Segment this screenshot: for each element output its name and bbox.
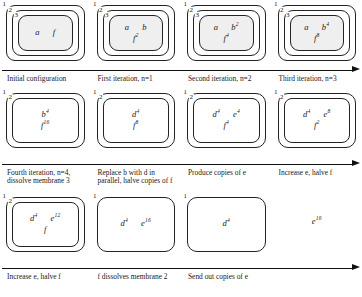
arrow-line xyxy=(2,70,352,71)
arrow-head-icon xyxy=(352,264,360,270)
membrane-3[interactable] xyxy=(18,15,73,51)
membrane-label-1: 1 xyxy=(183,193,188,200)
membrane-label-1: 1 xyxy=(93,1,98,8)
membrane-label-1: 1 xyxy=(2,89,7,96)
membrane-configuration[interactable]: 12d4e12f xyxy=(0,191,91,264)
membrane-label-2: 2 xyxy=(189,94,194,101)
membrane-1[interactable] xyxy=(97,197,176,252)
arrow-line xyxy=(2,164,352,165)
membrane-label-2: 2 xyxy=(8,94,13,101)
membrane-configuration[interactable]: e16 xyxy=(272,191,362,264)
diagram-canvas: 123af123abf2123ab2f4123ab4f8Initial conf… xyxy=(0,0,362,297)
membrane-configuration[interactable]: 123ab4f8 xyxy=(272,0,362,66)
membrane-configuration[interactable]: 123ab2f4 xyxy=(181,0,272,66)
membrane-label-2: 2 xyxy=(280,7,285,14)
membrane-configuration[interactable]: 1d4 xyxy=(181,191,272,264)
membrane-label-3: 3 xyxy=(195,12,200,19)
membrane-2[interactable] xyxy=(12,202,79,247)
arrow-line xyxy=(2,268,352,269)
step-caption: Produce copies of e xyxy=(181,169,272,186)
step-caption: Increase e, halve f xyxy=(272,169,362,186)
timeline-arrow xyxy=(0,264,362,273)
membrane-label-2: 2 xyxy=(8,7,13,14)
membrane-label-1: 1 xyxy=(93,89,98,96)
cell-strip: 12b4f1612d4f812d4e4f412d4e8f2 xyxy=(0,87,362,160)
step-caption: Replace b with d in parallel, halve copi… xyxy=(91,169,182,186)
membrane-3[interactable] xyxy=(290,15,345,51)
diagram-row: 123af123abf2123ab2f4123ab4f8Initial conf… xyxy=(0,0,362,87)
membrane-configuration[interactable]: 123af xyxy=(0,0,91,66)
membrane-configuration[interactable]: 12d4e8f2 xyxy=(272,87,362,160)
step-caption: Fourth iteration, n=4, dissolve membrane… xyxy=(0,169,91,186)
membrane-2[interactable] xyxy=(284,98,351,143)
membrane-label-1: 1 xyxy=(274,1,279,8)
membrane-label-1: 1 xyxy=(274,89,279,96)
timeline-arrow xyxy=(0,160,362,169)
membrane-label-2: 2 xyxy=(189,7,194,14)
step-caption: First iteration, n=1 xyxy=(91,75,182,84)
step-caption: Second iteration, n=2 xyxy=(181,75,272,84)
step-caption: Increase e, halve f xyxy=(0,273,91,282)
caption-strip: Fourth iteration, n=4, dissolve membrane… xyxy=(0,169,362,186)
membrane-3[interactable] xyxy=(109,15,164,51)
step-caption: Initial configuration xyxy=(0,75,91,84)
membrane-label-1: 1 xyxy=(2,193,7,200)
arrow-head-icon xyxy=(352,66,360,72)
membrane-3[interactable] xyxy=(199,15,254,51)
diagram-row: 12b4f1612d4f812d4e4f412d4e8f2Fourth iter… xyxy=(0,87,362,191)
membrane-label-1: 1 xyxy=(2,1,7,8)
rows-root: 123af123abf2123ab2f4123ab4f8Initial conf… xyxy=(0,0,362,286)
membrane-label-3: 3 xyxy=(105,12,110,19)
membrane-label-1: 1 xyxy=(183,89,188,96)
membrane-label-2: 2 xyxy=(99,7,104,14)
cell-strip: 123af123abf2123ab2f4123ab4f8 xyxy=(0,0,362,66)
membrane-1[interactable] xyxy=(187,197,266,252)
membrane-label-3: 3 xyxy=(286,12,291,19)
environment-objects: e16 xyxy=(272,191,362,264)
membrane-configuration[interactable]: 123abf2 xyxy=(91,0,182,66)
membrane-label-1: 1 xyxy=(183,1,188,8)
membrane-2[interactable] xyxy=(193,98,260,143)
step-caption: Third iteration, n=3 xyxy=(272,75,362,84)
membrane-configuration[interactable]: 12b4f16 xyxy=(0,87,91,160)
membrane-2[interactable] xyxy=(103,98,170,143)
row-spacer xyxy=(0,281,362,286)
membrane-label-2: 2 xyxy=(99,94,104,101)
arrow-head-icon xyxy=(352,160,360,166)
timeline-arrow xyxy=(0,66,362,75)
caption-strip: Initial configurationFirst iteration, n=… xyxy=(0,75,362,84)
object-multiset: e16 xyxy=(312,217,322,227)
diagram-row: 12d4e12f1d4e161d4e16Increase e, halve ff… xyxy=(0,191,362,287)
membrane-label-2: 2 xyxy=(8,198,13,205)
step-caption: Send out copies of e xyxy=(181,273,272,282)
membrane-label-1: 1 xyxy=(93,193,98,200)
membrane-configuration[interactable]: 12d4f8 xyxy=(91,87,182,160)
membrane-label-2: 2 xyxy=(280,94,285,101)
membrane-configuration[interactable]: 12d4e4f4 xyxy=(181,87,272,160)
membrane-2[interactable] xyxy=(12,98,79,143)
object-exponent: 16 xyxy=(316,216,322,222)
step-caption: f dissolves membrane 2 xyxy=(91,273,182,282)
membrane-configuration[interactable]: 1d4e16 xyxy=(91,191,182,264)
cell-strip: 12d4e12f1d4e161d4e16 xyxy=(0,191,362,264)
caption-strip: Increase e, halve ff dissolves membrane … xyxy=(0,273,362,282)
membrane-label-3: 3 xyxy=(14,12,19,19)
